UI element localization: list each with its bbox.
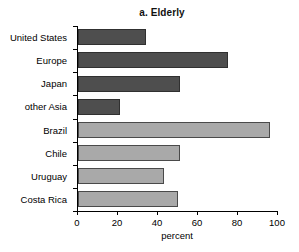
bar-uruguay[interactable] xyxy=(78,168,164,184)
y-tick-mark xyxy=(73,26,77,27)
y-tick-mark xyxy=(73,95,77,96)
category-label-europe: Europe xyxy=(36,49,67,72)
chart-figure: a. Elderly 020406080100 percent United S… xyxy=(0,0,299,252)
bar-brazil[interactable] xyxy=(78,122,270,138)
y-tick-mark xyxy=(73,119,77,120)
x-tick-mark xyxy=(117,211,118,215)
category-label-other-asia: other Asia xyxy=(25,95,67,118)
x-tick-label: 60 xyxy=(182,217,212,228)
x-axis-label: percent xyxy=(77,230,277,241)
x-axis-line xyxy=(77,211,278,212)
x-tick-mark xyxy=(277,211,278,215)
x-tick-label: 40 xyxy=(142,217,172,228)
category-label-brazil: Brazil xyxy=(43,119,67,142)
x-tick-mark xyxy=(197,211,198,215)
bar-japan[interactable] xyxy=(78,76,180,92)
bar-europe[interactable] xyxy=(78,52,228,68)
x-tick-label: 20 xyxy=(102,217,132,228)
x-tick-mark xyxy=(157,211,158,215)
category-label-united-states: United States xyxy=(10,26,67,49)
y-tick-mark xyxy=(73,188,77,189)
y-tick-mark xyxy=(73,142,77,143)
x-tick-mark xyxy=(237,211,238,215)
category-label-costa-rica: Costa Rica xyxy=(21,188,67,211)
x-tick-label: 80 xyxy=(222,217,252,228)
category-label-chile: Chile xyxy=(45,142,67,165)
chart-title: a. Elderly xyxy=(0,7,299,19)
x-tick-label: 0 xyxy=(62,217,92,228)
category-label-uruguay: Uruguay xyxy=(31,165,67,188)
bar-costa-rica[interactable] xyxy=(78,191,178,207)
y-tick-mark xyxy=(73,165,77,166)
bar-chile[interactable] xyxy=(78,145,180,161)
bar-other-asia[interactable] xyxy=(78,99,120,115)
category-label-japan: Japan xyxy=(41,72,67,95)
y-tick-mark xyxy=(73,49,77,50)
x-tick-mark xyxy=(77,211,78,215)
y-tick-mark xyxy=(73,72,77,73)
x-tick-label: 100 xyxy=(262,217,292,228)
plot-area: 020406080100 xyxy=(77,26,277,211)
bar-united-states[interactable] xyxy=(78,29,146,45)
